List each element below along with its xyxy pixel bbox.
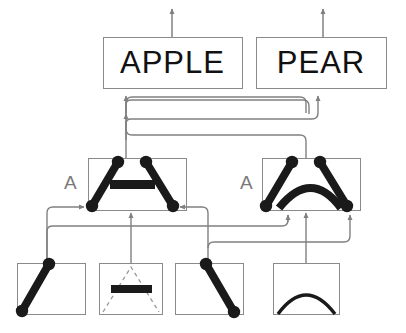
joint-dot	[86, 200, 98, 212]
joint-dot	[43, 258, 55, 270]
primitive-horizontal-bar	[111, 285, 152, 293]
joint-dot	[112, 156, 124, 168]
diagram-canvas: APPLE PEAR A A	[0, 0, 406, 333]
conn-b3-to-comparc-right	[208, 215, 350, 248]
joint-dot	[314, 156, 326, 168]
joint-dot	[228, 306, 240, 318]
joint-dot	[286, 156, 298, 168]
output-arrows-group	[172, 9, 323, 37]
joint-dot	[341, 200, 353, 212]
middle-to-top-connections	[126, 96, 318, 158]
composite-arc-node-letter: A	[240, 172, 253, 194]
bus-upper-horizontal	[126, 100, 309, 114]
conn-comparc-to-apple	[126, 114, 306, 158]
pear-node-label: PEAR	[256, 37, 386, 88]
conn-b3-to-compbar-right	[180, 207, 208, 263]
bottom-to-middle-connections	[47, 207, 350, 263]
joint-dot	[140, 156, 152, 168]
composite-bar-node-letter: A	[64, 172, 77, 194]
conn-b1-to-compbar-left	[47, 207, 84, 263]
conn-compbar-to-pear	[126, 96, 318, 140]
primitive-boxes-group	[18, 264, 340, 315]
joint-dot	[16, 305, 28, 317]
apple-node-label: APPLE	[103, 37, 242, 88]
joint-dot	[200, 258, 212, 270]
middle-to-top-bus	[126, 100, 309, 114]
conn-b1-to-comparc-left	[47, 215, 288, 263]
joint-dot	[260, 200, 272, 212]
joint-dot	[167, 200, 179, 212]
composite-horizontal-bar	[110, 180, 155, 189]
